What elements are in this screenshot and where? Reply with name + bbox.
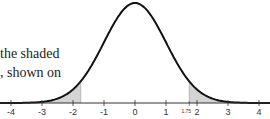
density-curve (0, 3, 270, 103)
x-tick-label: -3 (38, 107, 46, 117)
x-tick-label: -1 (100, 107, 108, 117)
shaded-tails (11, 81, 259, 103)
x-tick-label: -4 (7, 107, 15, 117)
x-tick-label: 3 (225, 107, 230, 117)
x-tick-label: 4 (256, 107, 261, 117)
cutoff-label: 1.75 (181, 108, 191, 114)
x-tick-label: 2 (194, 107, 199, 117)
x-tick-label: -2 (69, 107, 77, 117)
x-tick-label: 0 (132, 107, 137, 117)
normal-distribution-chart: -4-3-2-1012341.75 (0, 0, 270, 119)
x-tick-label: 1 (163, 107, 168, 117)
